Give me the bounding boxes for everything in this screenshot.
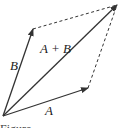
dashed-edge-right xyxy=(88,5,117,88)
label-b: B xyxy=(10,58,18,73)
label-sum: A + B xyxy=(39,41,71,56)
label-a: A xyxy=(44,103,53,118)
vector-b-arrow xyxy=(3,29,33,116)
vector-diagram: B A + B A Figure xyxy=(0,0,123,128)
figure-caption: Figure xyxy=(0,122,31,128)
